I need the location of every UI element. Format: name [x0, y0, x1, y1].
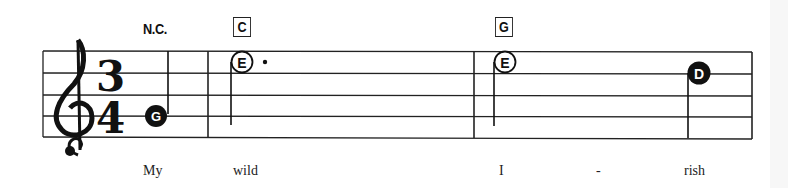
note-d-quarter: D: [688, 62, 711, 139]
chord-symbol-c: C: [233, 17, 251, 37]
svg-text:D: D: [694, 66, 704, 82]
time-sig-bottom: 4: [96, 94, 125, 143]
svg-text:E: E: [500, 55, 509, 71]
lyric-rish: rish: [684, 163, 705, 179]
chord-symbol-g: G: [495, 17, 513, 37]
note-e-dotted-half: E: [231, 52, 267, 126]
staff: 3 4 G E E D: [0, 0, 788, 188]
lyric-i: I: [499, 163, 504, 179]
note-g-quarter: G: [145, 51, 168, 127]
lyric-hyphen: -: [596, 163, 601, 179]
no-chord-label: N.C.: [143, 20, 167, 37]
lyric-my: My: [143, 163, 162, 179]
lyric-wild: wild: [233, 163, 258, 179]
note-e-half: E: [494, 52, 516, 127]
svg-text:G: G: [151, 109, 161, 124]
svg-text:E: E: [237, 55, 246, 71]
clef-tail: [65, 146, 75, 156]
